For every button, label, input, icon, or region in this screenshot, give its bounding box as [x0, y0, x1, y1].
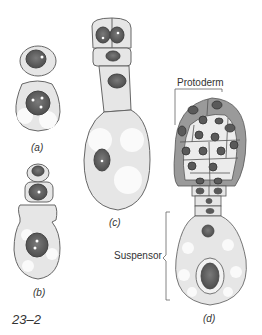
suspensor-annotation: Suspensor — [114, 250, 162, 261]
panel-a-embryo — [16, 46, 60, 131]
panel-d-label: (d) — [203, 313, 215, 324]
panel-b-embryo — [14, 164, 60, 279]
panel-d-embryo — [163, 89, 246, 305]
panel-a-label: (a) — [31, 142, 43, 153]
protoderm-annotation: Protoderm — [177, 77, 224, 88]
panel-c-label: (c) — [109, 217, 121, 228]
embryo-diagram — [0, 0, 262, 335]
figure-number: 23–2 — [12, 312, 41, 327]
panel-b-label: (b) — [33, 287, 45, 298]
panel-c-embryo — [84, 18, 150, 210]
